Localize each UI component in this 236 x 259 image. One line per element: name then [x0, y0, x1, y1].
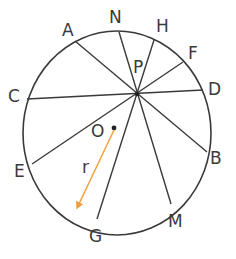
chord-NM: [119, 32, 171, 204]
label-M: M: [168, 211, 183, 231]
chord-DC: [27, 90, 203, 99]
label-E: E: [14, 161, 25, 181]
label-B: B: [210, 148, 222, 168]
label-D: D: [208, 79, 221, 99]
intersection-point-P: [135, 92, 139, 96]
label-F: F: [188, 43, 198, 63]
label-N: N: [109, 7, 122, 27]
chords: [27, 32, 207, 219]
label-P: P: [133, 57, 143, 77]
center-point-O: [112, 126, 117, 131]
label-O: O: [91, 121, 104, 141]
label-r: r: [82, 157, 89, 177]
label-C: C: [8, 86, 20, 106]
label-G: G: [89, 226, 102, 246]
label-A: A: [62, 20, 74, 40]
circle: [23, 31, 211, 235]
label-H: H: [156, 16, 169, 36]
circle-diagram: A N H F D C E G M B P O r: [0, 0, 236, 259]
